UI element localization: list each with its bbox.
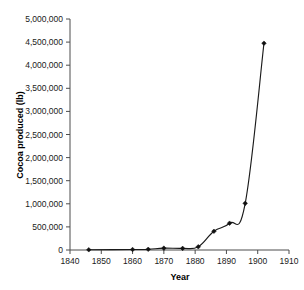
y-tick-label: 1,500,000 [25, 176, 63, 186]
x-axis-title: Year [170, 272, 190, 282]
y-axis-tick-marks [66, 19, 70, 250]
cocoa-series-line [89, 43, 264, 250]
y-tick-label: 3,000,000 [25, 106, 63, 116]
y-tick-label: 2,000,000 [25, 153, 63, 163]
y-tick-label: 5,000,000 [25, 14, 63, 24]
x-tick-label: 1860 [123, 256, 142, 266]
x-tick-label: 1870 [154, 256, 173, 266]
cocoa-production-line-chart: 0500,0001,000,0001,500,0002,000,0002,500… [0, 0, 304, 290]
y-tick-label: 4,000,000 [25, 60, 63, 70]
y-tick-label: 2,500,000 [25, 130, 63, 140]
y-axis-title: Cocoa produced (lb) [15, 91, 25, 179]
y-tick-label: 4,500,000 [25, 37, 63, 47]
chart-page: 0500,0001,000,0001,500,0002,000,0002,500… [0, 0, 304, 290]
x-tick-label: 1890 [217, 256, 236, 266]
x-axis-tick-marks [70, 250, 289, 254]
x-tick-label: 1840 [61, 256, 80, 266]
x-tick-label: 1880 [186, 256, 205, 266]
data-point-marker [130, 247, 135, 252]
data-point-marker [262, 41, 267, 46]
x-tick-label: 1910 [280, 256, 299, 266]
y-tick-label: 3,500,000 [25, 83, 63, 93]
cocoa-series-markers [86, 41, 266, 252]
data-point-marker [86, 247, 91, 252]
x-tick-label: 1850 [92, 256, 111, 266]
data-point-marker [243, 201, 248, 206]
x-tick-label: 1900 [248, 256, 267, 266]
y-tick-label: 500,000 [32, 222, 63, 232]
y-tick-label: 1,000,000 [25, 199, 63, 209]
x-axis-tick-labels: 18401850186018701880189019001910 [61, 256, 299, 266]
data-point-marker [146, 247, 151, 252]
y-tick-label: 0 [58, 245, 63, 255]
y-axis-tick-labels: 0500,0001,000,0001,500,0002,000,0002,500… [25, 14, 63, 255]
